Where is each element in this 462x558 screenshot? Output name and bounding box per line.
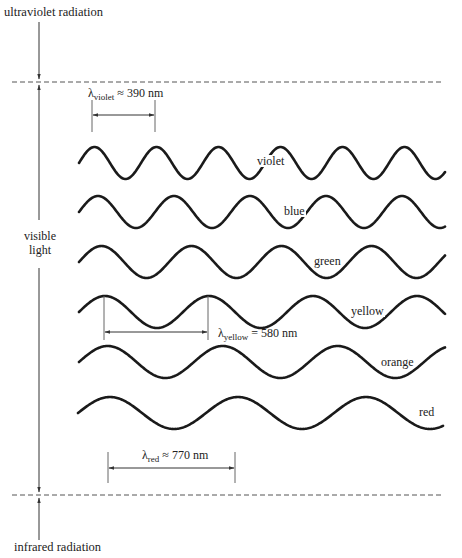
spectrum-diagram: [0, 0, 462, 558]
wavelength-label-red: λred ≈ 770 nm: [142, 449, 208, 464]
visible-light-label: visible light: [19, 229, 61, 258]
wave-label-red: red: [418, 406, 435, 418]
wave-label-orange: orange: [380, 356, 415, 368]
lambda-subscript: violet: [94, 92, 115, 102]
wavelength-label-violet: λviolet ≈ 390 nm: [88, 87, 163, 102]
wavelength-label-yellow: λyellow = 580 nm: [218, 327, 297, 342]
wave-label-violet: violet: [256, 155, 285, 167]
wave-blue: [79, 196, 445, 228]
relation-sign: =: [248, 326, 261, 340]
lambda-subscript: red: [148, 454, 160, 464]
wave-label-green: green: [313, 255, 342, 267]
wave-red: [78, 397, 443, 429]
wavelength-value: 390 nm: [127, 86, 163, 100]
relation-sign: ≈: [159, 448, 172, 462]
ultraviolet-label: ultraviolet radiation: [4, 6, 103, 19]
infrared-label: infrared radiation: [14, 541, 101, 554]
visible-label-line2: light: [19, 243, 61, 257]
waves-layer: [78, 147, 445, 429]
lambda-subscript: yellow: [224, 332, 249, 342]
wave-yellow: [79, 296, 445, 328]
visible-label-line1: visible: [19, 229, 61, 243]
wavelength-value: 770 nm: [172, 448, 208, 462]
wavelength-value: 580 nm: [261, 326, 297, 340]
wave-label-blue: blue: [283, 205, 306, 217]
relation-sign: ≈: [114, 86, 127, 100]
wave-green: [79, 246, 445, 278]
wave-label-yellow: yellow: [350, 305, 385, 317]
